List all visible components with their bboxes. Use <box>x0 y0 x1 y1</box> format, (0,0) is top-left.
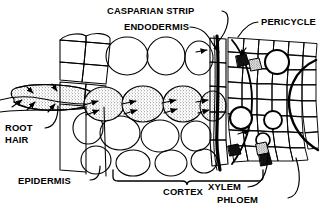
label-root: ROOT <box>5 122 33 133</box>
label-epidermis: EPIDERMIS <box>18 175 71 186</box>
label-hair: HAIR <box>5 134 29 145</box>
label-casparian-strip: CASPARIAN STRIP <box>107 5 195 16</box>
label-phloem: PHLOEM <box>217 194 258 205</box>
label-xylem: XYLEM <box>208 181 241 192</box>
label-cortex: CORTEX <box>163 186 204 197</box>
label-endodermis: ENDODERMIS <box>124 21 189 32</box>
root-anatomy-diagram: CASPARIAN STRIP ENDODERMIS PERICYCLE ROO… <box>0 0 319 208</box>
label-pericycle: PERICYCLE <box>261 16 316 27</box>
